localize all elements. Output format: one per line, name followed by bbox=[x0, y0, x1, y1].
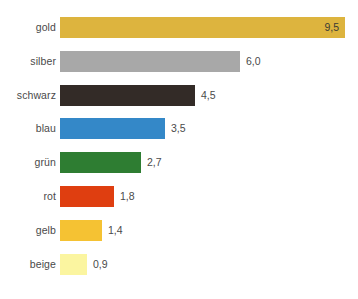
bar-wrapper: 0,9 bbox=[60, 254, 87, 275]
bar-value-label: 1,4 bbox=[102, 220, 123, 241]
bar-row: beige0,9 bbox=[0, 254, 358, 275]
bar-wrapper: 1,4 bbox=[60, 220, 102, 241]
bar-wrapper: 6,0 bbox=[60, 51, 240, 72]
bar-value-label: 9,5 bbox=[324, 17, 339, 38]
bar-row: rot1,8 bbox=[0, 186, 358, 207]
bar-category-label: gelb bbox=[0, 220, 56, 241]
bar-row: silber6,0 bbox=[0, 51, 358, 72]
bar-category-label: silber bbox=[0, 51, 56, 72]
bar-wrapper: 9,5 bbox=[60, 17, 345, 38]
bar-rows-container: gold9,5silber6,0schwarz4,5blau3,5grün2,7… bbox=[0, 0, 358, 299]
bar-value-label: 6,0 bbox=[240, 51, 261, 72]
bar-gold[interactable]: 9,5 bbox=[60, 17, 345, 38]
bar-category-label: beige bbox=[0, 254, 56, 275]
bar-value-label: 2,7 bbox=[141, 152, 162, 173]
bar-value-label: 1,8 bbox=[114, 186, 135, 207]
bar-beige[interactable] bbox=[60, 254, 87, 275]
bar-row: schwarz4,5 bbox=[0, 85, 358, 106]
bar-blau[interactable] bbox=[60, 118, 165, 139]
bar-row: grün2,7 bbox=[0, 152, 358, 173]
bar-value-label: 3,5 bbox=[165, 118, 186, 139]
bar-row: blau3,5 bbox=[0, 118, 358, 139]
bar-silber[interactable] bbox=[60, 51, 240, 72]
bar-schwarz[interactable] bbox=[60, 85, 195, 106]
bar-gelb[interactable] bbox=[60, 220, 102, 241]
bar-wrapper: 2,7 bbox=[60, 152, 141, 173]
bar-chart: gold9,5silber6,0schwarz4,5blau3,5grün2,7… bbox=[0, 0, 358, 299]
bar-category-label: schwarz bbox=[0, 85, 56, 106]
bar-grün[interactable] bbox=[60, 152, 141, 173]
bar-row: gelb1,4 bbox=[0, 220, 358, 241]
bar-row: gold9,5 bbox=[0, 17, 358, 38]
bar-category-label: grün bbox=[0, 152, 56, 173]
bar-category-label: gold bbox=[0, 17, 56, 38]
bar-category-label: rot bbox=[0, 186, 56, 207]
bar-wrapper: 3,5 bbox=[60, 118, 165, 139]
bar-rot[interactable] bbox=[60, 186, 114, 207]
bar-wrapper: 4,5 bbox=[60, 85, 195, 106]
bar-wrapper: 1,8 bbox=[60, 186, 114, 207]
bar-value-label: 4,5 bbox=[195, 85, 216, 106]
bar-category-label: blau bbox=[0, 118, 56, 139]
bar-value-label: 0,9 bbox=[87, 254, 108, 275]
